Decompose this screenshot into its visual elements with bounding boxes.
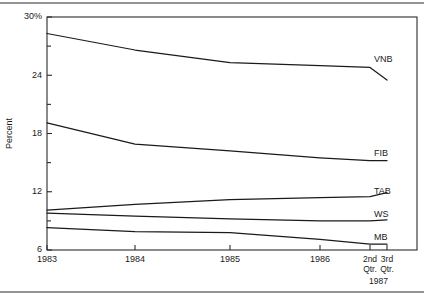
x-tick-label: Qtr.	[380, 264, 394, 274]
series-label-mb: MB	[374, 232, 388, 242]
line-chart-figure: 612182430%Percent19831984198519862ndQtr.…	[0, 0, 424, 302]
y-tick-label: 30%	[24, 11, 42, 21]
series-line-vnb	[47, 34, 387, 81]
series-label-vnb: VNB	[374, 54, 393, 64]
series-line-fib	[47, 123, 387, 161]
y-tick-label: 6	[37, 244, 42, 254]
y-tick-label: 24	[32, 70, 42, 80]
y-tick-label: 12	[32, 186, 42, 196]
x-tick-label: 1983	[37, 254, 57, 264]
x-tick-label: Qtr.	[363, 264, 377, 274]
series-line-ws	[47, 213, 387, 221]
series-label-tab: TAB	[374, 186, 391, 196]
x-tick-label: 2nd	[363, 254, 377, 264]
x-quarter-group-label: 1987	[369, 276, 388, 286]
series-label-fib: FIB	[374, 148, 388, 158]
x-tick-label: 1984	[125, 254, 145, 264]
y-axis-title: Percent	[4, 117, 14, 149]
series-label-ws: WS	[374, 209, 389, 219]
x-tick-label: 3rd	[381, 254, 394, 264]
series-line-tab	[47, 193, 387, 210]
series-line-mb	[47, 228, 387, 245]
x-tick-label: 1985	[220, 254, 240, 264]
y-tick-label: 18	[32, 128, 42, 138]
x-tick-label: 1986	[310, 254, 330, 264]
